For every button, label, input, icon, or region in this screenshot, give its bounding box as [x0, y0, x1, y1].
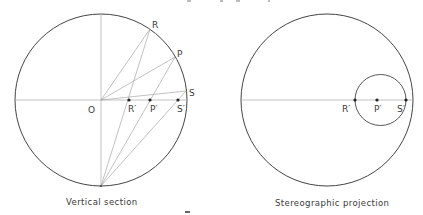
- label-S-prime-right: S′: [397, 104, 405, 114]
- label-P-prime-right: P′: [374, 104, 381, 114]
- stereographic-projection-figure: R′ P′ S′ Stereographic projection: [241, 14, 413, 208]
- radius-OR: [101, 29, 150, 100]
- label-S-prime: S′: [177, 104, 185, 114]
- clipped-text-marks: [185, 0, 270, 213]
- projection-line-P: [101, 57, 175, 186]
- point-S-prime-right: [404, 98, 407, 101]
- point-bottom-pole: [100, 185, 102, 187]
- label-S: S: [189, 88, 195, 98]
- point-P-prime-right: [375, 98, 378, 101]
- projection-line-R: [101, 29, 150, 186]
- diagram-canvas: O R P S R′ P′ S′ Vertical section R′ P′ …: [0, 0, 423, 215]
- point-R-prime-right: [353, 98, 356, 101]
- point-S-prime: [176, 98, 179, 101]
- point-R-prime: [127, 98, 130, 101]
- label-R: R: [152, 20, 158, 30]
- point-P-prime: [148, 98, 151, 101]
- label-O: O: [88, 105, 95, 115]
- label-R-prime-right: R′: [342, 104, 350, 114]
- label-P: P: [177, 49, 183, 59]
- label-R-prime: R′: [128, 104, 136, 114]
- label-P-prime: P′: [150, 104, 157, 114]
- caption-vertical-section: Vertical section: [66, 197, 138, 207]
- caption-stereographic-projection: Stereographic projection: [275, 198, 389, 208]
- vertical-section-figure: O R P S R′ P′ S′ Vertical section: [15, 14, 195, 207]
- projection-line-S: [101, 91, 186, 186]
